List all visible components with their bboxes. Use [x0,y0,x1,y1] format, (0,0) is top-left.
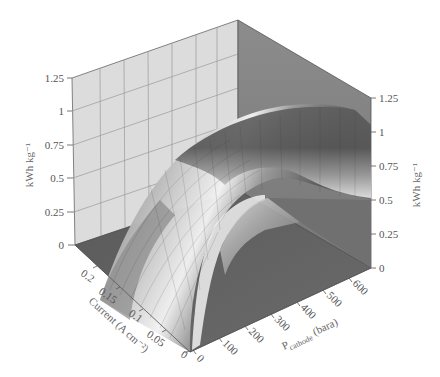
right-z-tick-labels: 0 0.25 0.5 0.75 1 1.25 [379,92,399,274]
svg-text:200: 200 [247,325,268,346]
svg-text:0: 0 [195,352,208,365]
svg-text:100: 100 [221,337,242,358]
right-z-axis-label: kWh kg⁻¹ [410,163,422,207]
svg-text:1.25: 1.25 [45,72,65,84]
svg-text:0.2: 0.2 [79,267,97,285]
svg-text:600: 600 [351,277,372,298]
svg-text:0: 0 [179,348,191,361]
svg-text:400: 400 [299,301,320,322]
svg-text:0.75: 0.75 [379,160,399,172]
left-z-axis-label: kWh kg⁻¹ [23,143,35,187]
svg-text:1: 1 [59,105,65,117]
svg-text:0.25: 0.25 [379,228,399,240]
svg-text:500: 500 [325,289,346,310]
svg-text:300: 300 [273,313,294,334]
svg-text:0: 0 [379,262,385,274]
surface-plot: 0 0.25 0.5 0.75 1 1.25 kWh kg⁻¹ 0 0.25 0… [0,0,440,377]
svg-text:0.75: 0.75 [45,139,65,151]
left-z-tick-labels: 0 0.25 0.5 0.75 1 1.25 [45,72,65,251]
svg-text:0.5: 0.5 [379,194,393,206]
svg-text:1.25: 1.25 [379,92,399,104]
svg-text:1: 1 [379,126,385,138]
svg-text:0.25: 0.25 [45,206,65,218]
svg-text:0.5: 0.5 [50,172,64,184]
svg-text:0: 0 [59,239,65,251]
right-z-axis [371,98,376,268]
